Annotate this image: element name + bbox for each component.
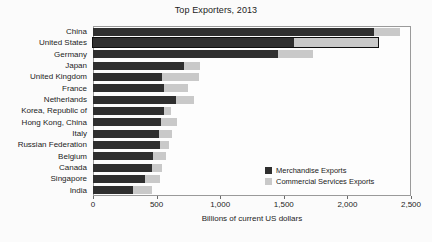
bar-segment-services	[133, 186, 152, 194]
bar-segment-merchandise	[93, 164, 152, 172]
legend-label: Commercial Services Exports	[276, 177, 374, 186]
y-axis-label: Italy	[0, 128, 90, 139]
stacked-bar	[93, 73, 199, 81]
stacked-bar	[93, 164, 162, 172]
bar-segment-merchandise	[93, 96, 176, 104]
bar-segment-merchandise	[93, 175, 145, 183]
bar-segment-merchandise	[93, 141, 160, 149]
bar-segment-merchandise	[93, 50, 278, 58]
y-axis-label: China	[0, 26, 90, 37]
stacked-bar	[93, 28, 400, 36]
bar-row	[93, 128, 411, 139]
bar-segment-services	[176, 96, 194, 104]
x-axis-tick	[411, 196, 412, 199]
bar-segment-services	[160, 141, 169, 149]
x-axis-tick-label: 2,500	[401, 200, 421, 209]
x-axis-tick-label: 500	[150, 200, 163, 209]
x-axis: 05001,0001,5002,0002,500	[93, 196, 411, 197]
bar-row	[93, 60, 411, 71]
bar-segment-merchandise	[93, 73, 162, 81]
bar-segment-merchandise	[93, 130, 159, 138]
bar-segment-merchandise	[93, 107, 164, 115]
x-axis-tick-label: 2,000	[337, 200, 357, 209]
bar-segment-services	[152, 164, 162, 172]
y-axis-label: United States	[0, 37, 90, 48]
bar-row	[93, 49, 411, 60]
x-axis-tick	[220, 196, 221, 199]
stacked-bar	[93, 107, 171, 115]
y-axis-label: Singapore	[0, 173, 90, 184]
bar-segment-services	[162, 73, 200, 81]
x-axis-tick	[157, 196, 158, 199]
y-axis-label: Belgium	[0, 151, 90, 162]
legend-swatch-icon	[265, 167, 272, 174]
stacked-bar	[93, 38, 378, 47]
bar-segment-merchandise	[93, 28, 374, 36]
bar-segment-services	[153, 152, 166, 160]
bar-segment-services	[164, 107, 171, 115]
bar-segment-services	[161, 118, 177, 126]
stacked-bar	[93, 152, 166, 160]
y-axis-label: Canada	[0, 162, 90, 173]
y-axis-category-labels: ChinaUnited StatesGermanyJapanUnited Kin…	[0, 26, 90, 196]
x-axis-title: Billions of current US dollars	[93, 214, 411, 223]
bar-segment-services	[159, 130, 173, 138]
bar-row	[93, 37, 411, 48]
bar-row	[93, 117, 411, 128]
stacked-bar	[93, 141, 169, 149]
bar-row	[93, 105, 411, 116]
bar-row	[93, 94, 411, 105]
x-axis-tick-label: 1,000	[210, 200, 230, 209]
bar-segment-merchandise	[93, 62, 184, 70]
bar-segment-services	[164, 84, 188, 92]
bar-segment-services	[145, 175, 160, 183]
bar-segment-merchandise	[93, 84, 164, 92]
bar-row	[93, 71, 411, 82]
x-axis-tick	[347, 196, 348, 199]
chart-title: Top Exporters, 2013	[0, 5, 432, 15]
legend-item: Merchandise Exports	[265, 166, 374, 175]
chart-legend: Merchandise ExportsCommercial Services E…	[265, 166, 374, 188]
bar-segment-merchandise	[93, 118, 161, 126]
bar-segment-services	[374, 28, 400, 36]
y-axis-label: Germany	[0, 49, 90, 60]
bar-row	[93, 26, 411, 37]
y-axis-label: France	[0, 83, 90, 94]
y-axis-label: Japan	[0, 60, 90, 71]
bar-segment-services	[184, 62, 201, 70]
chart-container: Top Exporters, 2013 ChinaUnited StatesGe…	[0, 0, 432, 242]
y-axis-label: Korea, Republic of	[0, 105, 90, 116]
bar-segment-merchandise	[93, 152, 153, 160]
y-axis-label: United Kingdom	[0, 71, 90, 82]
stacked-bar	[93, 84, 188, 92]
y-axis-label: Netherlands	[0, 94, 90, 105]
y-axis-label: Hong Kong, China	[0, 117, 90, 128]
legend-label: Merchandise Exports	[276, 166, 346, 175]
legend-swatch-icon	[265, 178, 272, 185]
bar-row	[93, 151, 411, 162]
stacked-bar	[93, 118, 177, 126]
x-axis-tick	[93, 196, 94, 199]
bar-segment-merchandise	[93, 186, 133, 194]
bar-row	[93, 83, 411, 94]
bar-segment-services	[278, 50, 313, 58]
x-axis-tick-label: 0	[91, 200, 95, 209]
x-axis-tick	[284, 196, 285, 199]
stacked-bar	[93, 175, 160, 183]
y-axis-label: Russian Federation	[0, 139, 90, 150]
stacked-bar	[93, 62, 200, 70]
bar-row	[93, 139, 411, 150]
bar-segment-services	[294, 38, 378, 47]
x-axis-tick-label: 1,500	[274, 200, 294, 209]
stacked-bar	[93, 50, 313, 58]
y-axis-label: India	[0, 185, 90, 196]
bar-segment-merchandise	[93, 38, 294, 47]
stacked-bar	[93, 130, 172, 138]
stacked-bar	[93, 96, 194, 104]
legend-item: Commercial Services Exports	[265, 177, 374, 186]
stacked-bar	[93, 186, 152, 194]
